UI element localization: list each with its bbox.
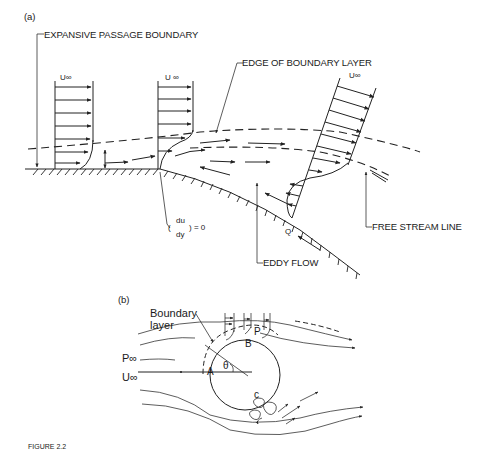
velocity-profile-2: U ∞ <box>158 73 193 169</box>
point-a-label: A <box>207 366 214 377</box>
point-c-label: c <box>254 389 259 400</box>
boundary-layer-diagram: (a) EXPANSIVE PASSAGE BOUNDARY <box>0 0 478 449</box>
free-stream-line-label: FREE STREAM LINE <box>372 221 462 232</box>
edge-of-boundary-layer-callout: EDGE OF BOUNDARY LAYER <box>216 57 372 133</box>
edge-of-boundary-layer-label: EDGE OF BOUNDARY LAYER <box>242 57 372 68</box>
wake-eddies <box>249 392 318 424</box>
cylinder-boundary-layer <box>203 325 278 374</box>
point-p-label: P <box>254 326 261 337</box>
boundary-layer-label-line2: layer <box>150 319 174 331</box>
boundary-layer-label-line1: Boundary <box>150 307 198 319</box>
u-infinity-label-b: U∞ <box>122 371 138 383</box>
boundary-layer-pointer <box>196 314 213 342</box>
theta-label: θ <box>223 360 229 371</box>
figure-caption: FIGURE 2.2 <box>28 443 66 449</box>
panel-a-label: (a) <box>24 11 35 22</box>
cylinder <box>210 340 280 410</box>
du-dy-zero-callout: ( du dy ) = 0 <box>160 172 206 239</box>
dy-label: dy <box>176 230 184 239</box>
p-infinity-label: P∞ <box>122 352 137 364</box>
eddy-flow-label: EDDY FLOW <box>263 257 319 268</box>
point-b-label: B <box>245 338 252 349</box>
u-infinity-label-1: U∞ <box>60 73 72 82</box>
equals-zero-label: ) = 0 <box>189 223 206 232</box>
velocity-profile-1: U∞ <box>55 73 93 169</box>
velocity-profile-3: U∞ <box>286 71 376 218</box>
free-stream-line-callout: FREE STREAM LINE <box>366 172 462 232</box>
u-infinity-label-3: U∞ <box>349 71 361 80</box>
panel-b-label: (b) <box>118 294 129 305</box>
point-q-label: Q <box>285 227 291 236</box>
du-label: du <box>176 216 185 225</box>
expansive-passage-boundary-label: EXPANSIVE PASSAGE BOUNDARY <box>44 29 199 40</box>
svg-text:(: ( <box>168 223 171 232</box>
u-infinity-label-2: U ∞ <box>165 73 179 82</box>
